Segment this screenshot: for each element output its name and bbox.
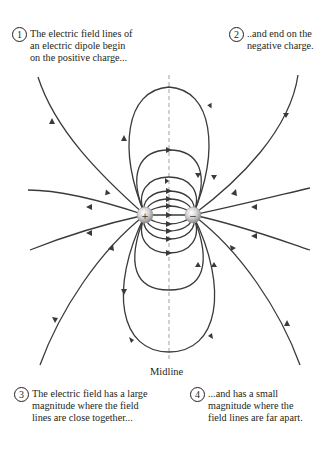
minus-sign: − bbox=[189, 211, 197, 221]
annotation-3: 3 The electric field has a large magnitu… bbox=[14, 388, 174, 424]
annotation-text-1: The electric field lines of an electric … bbox=[12, 28, 172, 64]
dipole-field-diagram: + − bbox=[0, 0, 333, 453]
annotation-2: 2 ..and end on the negative charge. bbox=[229, 28, 329, 52]
positive-charge: + bbox=[137, 207, 153, 223]
annotation-number-2: 2 bbox=[229, 27, 244, 42]
plus-sign: + bbox=[141, 211, 149, 221]
negative-charge: − bbox=[185, 207, 201, 223]
annotation-text-3: The electric field has a large magnitude… bbox=[14, 388, 174, 424]
annotation-number-1: 1 bbox=[12, 27, 27, 42]
annotation-text-2: ..and end on the negative charge. bbox=[229, 28, 329, 52]
annotation-number-3: 3 bbox=[14, 387, 29, 402]
annotation-4: 4 ...and has a small magnitude where the… bbox=[190, 388, 330, 424]
annotation-text-4: ...and has a small magnitude where the f… bbox=[190, 388, 330, 424]
annotation-number-4: 4 bbox=[190, 387, 205, 402]
midline-label: Midline bbox=[150, 366, 183, 377]
annotation-1: 1 The electric field lines of an electri… bbox=[12, 28, 172, 64]
